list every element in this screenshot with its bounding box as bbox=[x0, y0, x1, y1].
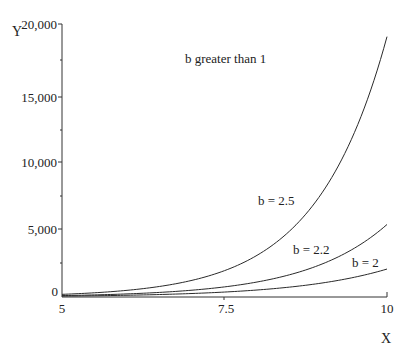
exponential-chart: 20,000 15,000 10,000 5,000 0 5 7.5 10 Y … bbox=[0, 0, 404, 346]
x-tick-label-10: 10 bbox=[381, 301, 394, 316]
x-tick-label-7-5: 7.5 bbox=[218, 301, 234, 316]
y-tick-label-10000: 10,000 bbox=[21, 155, 57, 170]
y-tick-label-15000: 15,000 bbox=[21, 90, 57, 105]
curve-label-b-2-2: b = 2.2 bbox=[293, 242, 330, 257]
x-axis-title: X bbox=[381, 331, 391, 346]
y-tick-label-20000: 20,000 bbox=[21, 17, 57, 32]
chart-title: b greater than 1 bbox=[185, 51, 266, 66]
y-ticks bbox=[58, 24, 62, 263]
y-tick-label-5000: 5,000 bbox=[28, 222, 57, 237]
curve-b-2-2 bbox=[62, 224, 387, 295]
curve-label-b-2-5: b = 2.5 bbox=[258, 193, 295, 208]
x-tick-label-5: 5 bbox=[59, 301, 66, 316]
curve-label-b-2: b = 2 bbox=[352, 255, 379, 270]
x-ticks bbox=[224, 292, 387, 300]
y-axis-title: Y bbox=[12, 24, 22, 39]
curve-b-2-5 bbox=[62, 37, 387, 295]
y-tick-label-0: 0 bbox=[52, 284, 59, 299]
